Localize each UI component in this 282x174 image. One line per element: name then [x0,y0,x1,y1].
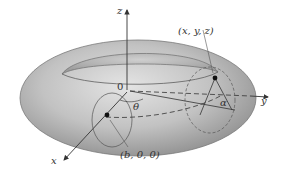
surface-point [213,76,218,81]
theta-label: θ [133,101,139,112]
x-axis-label: x [51,155,57,166]
surface-point-label: (x, y, z) [178,25,214,36]
torus-diagram: z y x 0 θ α (x, y, z) (b, 0, 0) [0,0,282,174]
z-axis-label: z [116,5,123,16]
torus-figure: z y x 0 θ α (x, y, z) (b, 0, 0) [0,0,282,174]
y-axis-label: y [260,95,267,106]
center-point-label: (b, 0, 0) [120,149,160,160]
center-point [105,113,110,118]
alpha-label: α [220,97,227,108]
origin-label: 0 [117,81,123,92]
